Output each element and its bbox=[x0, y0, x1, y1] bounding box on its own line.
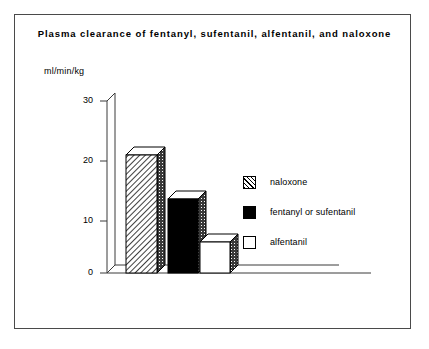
bar-alfentanil bbox=[200, 234, 238, 273]
hatch-swatch-icon bbox=[243, 176, 256, 189]
empty-swatch-icon bbox=[243, 236, 256, 249]
y-axis bbox=[100, 93, 115, 273]
y-tick-label-20: 20 bbox=[67, 155, 93, 165]
plot-area: ml/min/kg 30 20 10 0 naloxone fentanyl o… bbox=[0, 0, 429, 349]
chart-figure: Plasma clearance of fentanyl, sufentanil… bbox=[0, 0, 429, 349]
legend-label-alfentanil: alfentanil bbox=[270, 237, 307, 247]
chart-svg bbox=[0, 0, 429, 349]
bar-naloxone bbox=[126, 147, 165, 273]
y-tick-label-10: 10 bbox=[67, 215, 93, 225]
solid-swatch-icon bbox=[243, 206, 256, 219]
legend-label-naloxone: naloxone bbox=[270, 177, 307, 187]
legend-label-fentanyl-sufentanil: fentanyl or sufentanil bbox=[270, 207, 355, 217]
y-tick-label-30: 30 bbox=[67, 95, 93, 105]
y-tick-label-0: 0 bbox=[67, 267, 93, 277]
y-axis-unit-label: ml/min/kg bbox=[44, 66, 84, 76]
y-axis-ticks bbox=[100, 101, 107, 273]
